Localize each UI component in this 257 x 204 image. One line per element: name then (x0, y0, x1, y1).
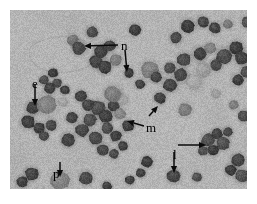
annotation-label-p: p (53, 167, 60, 180)
micrograph-figure: n e m l p (0, 0, 257, 204)
annotation-label-e: e (32, 77, 38, 90)
annotation-label-m: m (146, 121, 156, 134)
annotation-label-l: l (173, 148, 177, 161)
micrograph-image: n e m l p (10, 10, 247, 189)
annotation-label-n: n (121, 39, 128, 52)
specimen-canvas (10, 10, 247, 189)
